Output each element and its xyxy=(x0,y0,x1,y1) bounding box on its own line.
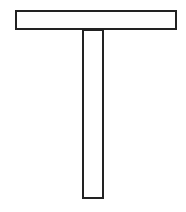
t-crossbar-rectangle xyxy=(15,10,177,30)
t-shape-diagram xyxy=(0,0,186,212)
t-stem-rectangle xyxy=(82,29,104,199)
